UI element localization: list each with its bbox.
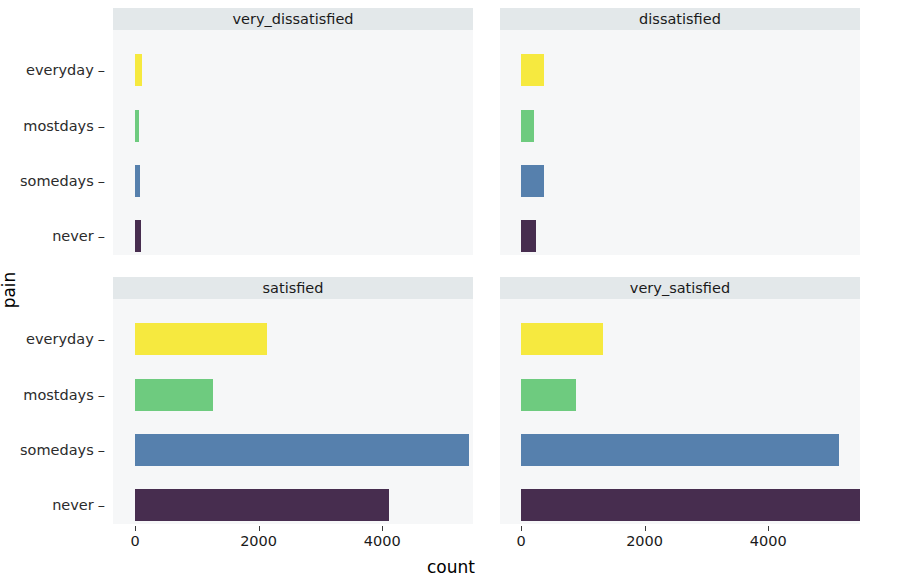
bar-satisfied-somedays (135, 434, 469, 466)
y-tick-mark: – (98, 173, 105, 189)
x-tick-mark (521, 526, 522, 531)
x-tick-label: 4000 (364, 533, 401, 549)
y-tick-mark: – (98, 228, 105, 244)
bar-satisfied-everyday (135, 323, 267, 355)
y-tick-label-everyday: everyday– (26, 331, 105, 347)
y-tick-label-never: never– (52, 228, 105, 244)
y-tick-label-mostdays: mostdays– (23, 118, 105, 134)
y-tick-mark: – (98, 497, 105, 513)
x-axis-title: count (0, 557, 902, 577)
bar-very_satisfied-mostdays (521, 379, 576, 411)
x-tick-mark (645, 526, 646, 531)
x-tick-mark (135, 526, 136, 531)
x-tick-mark (382, 526, 383, 531)
y-axis-title: pain (0, 271, 19, 308)
facet-bar-chart: pain count everyday–mostdays–somedays–ne… (0, 0, 902, 579)
plot-area-very_dissatisfied (113, 30, 473, 255)
bar-dissatisfied-mostdays (521, 110, 534, 142)
bar-very_satisfied-never (521, 489, 860, 521)
y-tick-mark: – (98, 331, 105, 347)
y-tick-label-text: everyday (26, 62, 94, 78)
y-tick-label-everyday: everyday– (26, 62, 105, 78)
bar-very_dissatisfied-never (135, 220, 141, 252)
y-tick-label-never: never– (52, 497, 105, 513)
panel-very_satisfied: very_satisfied (500, 277, 860, 524)
y-tick-mark: – (98, 387, 105, 403)
y-tick-label-text: somedays (20, 442, 94, 458)
x-tick-label: 0 (130, 533, 139, 549)
bar-very_satisfied-somedays (521, 434, 839, 466)
x-axis-left: 020004000 (113, 526, 473, 560)
y-tick-label-text: everyday (26, 331, 94, 347)
x-tick-mark (259, 526, 260, 531)
y-tick-label-text: somedays (20, 173, 94, 189)
plot-area-dissatisfied (500, 30, 860, 255)
bar-dissatisfied-never (521, 220, 536, 252)
bar-very_satisfied-everyday (521, 323, 603, 355)
y-tick-mark: – (98, 118, 105, 134)
plot-area-satisfied (113, 299, 473, 524)
bar-satisfied-mostdays (135, 379, 213, 411)
x-tick-label: 2000 (240, 533, 277, 549)
y-tick-label-text: never (52, 497, 94, 513)
strip-label-satisfied: satisfied (113, 277, 473, 299)
x-tick-label: 2000 (626, 533, 663, 549)
y-tick-label-somedays: somedays– (20, 442, 105, 458)
y-tick-label-mostdays: mostdays– (23, 387, 105, 403)
x-tick-label: 0 (516, 533, 525, 549)
x-tick-mark (768, 526, 769, 531)
bar-very_dissatisfied-mostdays (135, 110, 139, 142)
x-tick-label: 4000 (750, 533, 787, 549)
strip-label-very_dissatisfied: very_dissatisfied (113, 8, 473, 30)
y-tick-label-text: never (52, 228, 94, 244)
x-axis-right: 020004000 (500, 526, 860, 560)
bar-very_dissatisfied-everyday (135, 54, 142, 86)
y-tick-label-text: mostdays (23, 118, 93, 134)
bar-dissatisfied-somedays (521, 165, 544, 197)
y-tick-label-somedays: somedays– (20, 173, 105, 189)
bar-very_dissatisfied-somedays (135, 165, 140, 197)
bar-satisfied-never (135, 489, 389, 521)
bar-dissatisfied-everyday (521, 54, 544, 86)
panel-very_dissatisfied: very_dissatisfied (113, 8, 473, 255)
strip-label-very_satisfied: very_satisfied (500, 277, 860, 299)
panel-satisfied: satisfied (113, 277, 473, 524)
plot-area-very_satisfied (500, 299, 860, 524)
panel-dissatisfied: dissatisfied (500, 8, 860, 255)
y-tick-label-text: mostdays (23, 387, 93, 403)
y-tick-mark: – (98, 442, 105, 458)
strip-label-dissatisfied: dissatisfied (500, 8, 860, 30)
y-tick-mark: – (98, 62, 105, 78)
